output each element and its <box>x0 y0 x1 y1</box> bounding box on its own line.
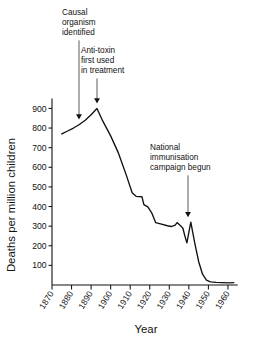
annotation-arrow-head <box>94 98 100 103</box>
x-tick-label: 1960 <box>213 289 232 311</box>
deaths-per-million-children-line-chart: 100200300400500600700800900 187018801890… <box>0 0 262 346</box>
annotation-arrow-head <box>185 212 191 217</box>
y-tick-label: 800 <box>32 123 47 133</box>
y-tick-label: 900 <box>32 104 47 114</box>
y-axis-title: Deaths per million children <box>5 138 17 272</box>
annotation-line: Anti-toxin <box>81 46 116 55</box>
x-tick-label: 1880 <box>57 289 76 311</box>
annotation-arrow-head <box>76 114 82 119</box>
annotation-line: in treatment <box>81 66 125 75</box>
series-path <box>62 108 234 282</box>
x-axis: 1870188018901900191019201930194019501960 <box>37 285 238 311</box>
cropped-caption-strip <box>0 337 262 346</box>
y-tick-label: 200 <box>32 241 47 251</box>
y-tick-label: 600 <box>32 162 47 172</box>
y-tick-label: 400 <box>32 202 47 212</box>
x-tick-label: 1890 <box>76 289 95 311</box>
annotation-line: immunisation <box>150 153 199 162</box>
annotation-line: campaign begun <box>150 163 211 172</box>
x-axis-title: Year <box>134 323 157 335</box>
x-tick-label: 1930 <box>154 289 173 311</box>
annotations: CausalorganismidentifiedAnti-toxinfirst … <box>62 8 211 217</box>
annotation-line: Causal <box>62 8 88 17</box>
annotation-national-immunisation: Nationalimmunisationcampaign begun <box>150 143 211 217</box>
y-tick-label: 100 <box>32 260 47 270</box>
x-tick-label: 1910 <box>115 289 134 311</box>
chart-figure: 100200300400500600700800900 187018801890… <box>0 0 262 346</box>
y-tick-label: 700 <box>32 143 47 153</box>
x-tick-label: 1900 <box>96 289 115 311</box>
x-tick-label: 1870 <box>37 289 56 311</box>
annotation-anti-toxin: Anti-toxinfirst usedin treatment <box>81 46 125 103</box>
x-tick-label: 1920 <box>135 289 154 311</box>
x-tick-label: 1940 <box>174 289 193 311</box>
annotation-line: identified <box>62 28 95 37</box>
data-series <box>62 108 234 282</box>
x-tick-label: 1950 <box>193 289 212 311</box>
y-tick-label: 300 <box>32 221 47 231</box>
y-tick-label: 500 <box>32 182 47 192</box>
annotation-line: first used <box>81 56 115 65</box>
annotation-line: organism <box>62 18 96 27</box>
y-axis: 100200300400500600700800900 <box>32 99 52 285</box>
annotation-line: National <box>150 143 180 152</box>
